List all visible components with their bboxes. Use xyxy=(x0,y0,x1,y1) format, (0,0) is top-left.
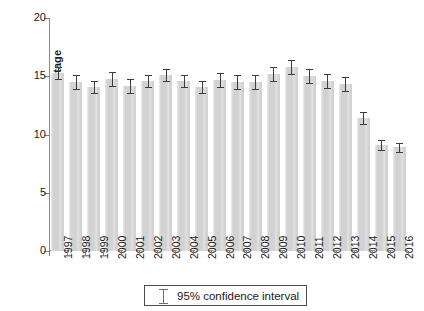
x-tick-label: 2011 xyxy=(314,236,325,259)
error-bar-cap-lower xyxy=(163,81,170,82)
bar-chart-figure: Percentage 05101520 19971998199920002001… xyxy=(0,0,424,311)
x-tick-mark xyxy=(408,251,409,256)
error-bar-stem xyxy=(166,69,167,81)
x-tick-label: 2004 xyxy=(189,236,200,259)
error-bar-glyph-icon xyxy=(159,289,168,304)
x-tick-label: 1997 xyxy=(63,236,74,259)
y-tick-label: 20 xyxy=(24,12,46,23)
x-tick-label: 1998 xyxy=(81,236,92,259)
x-tick-label: 2012 xyxy=(332,236,343,259)
error-bar-stem xyxy=(76,75,77,89)
error-bar-cap-lower xyxy=(234,89,241,90)
legend: 95% confidence interval xyxy=(144,285,307,306)
bar xyxy=(177,81,190,251)
plot-area xyxy=(49,18,408,251)
error-bar-cap-upper xyxy=(324,74,331,75)
bar xyxy=(159,75,172,251)
x-tick-mark xyxy=(246,251,247,256)
x-tick-label: 2009 xyxy=(278,236,289,259)
x-tick-mark xyxy=(139,251,140,256)
bar xyxy=(339,84,352,251)
x-tick-mark xyxy=(85,251,86,256)
error-bar-cap-upper xyxy=(109,72,116,73)
bar xyxy=(303,76,316,251)
y-tick-label: 0 xyxy=(24,245,46,256)
bar xyxy=(51,73,64,251)
x-tick-mark xyxy=(193,251,194,256)
x-tick-mark xyxy=(390,251,391,256)
x-tick-label: 2008 xyxy=(260,236,271,259)
error-bar-cap-upper xyxy=(145,75,152,76)
x-tick-mark xyxy=(67,251,68,256)
error-bar-cap-lower xyxy=(342,91,349,92)
error-bar-cap-lower xyxy=(181,87,188,88)
x-tick-mark xyxy=(336,251,337,256)
x-tick-mark xyxy=(372,251,373,256)
y-tick-label: 5 xyxy=(24,187,46,198)
x-tick-mark xyxy=(354,251,355,256)
x-tick-label: 2010 xyxy=(296,236,307,259)
error-bar-stem xyxy=(237,75,238,89)
y-tick-label: 10 xyxy=(24,129,46,140)
x-tick-mark xyxy=(211,251,212,256)
error-bar-stem xyxy=(327,74,328,88)
x-tick-label: 1999 xyxy=(99,236,110,259)
error-bar-cap-upper xyxy=(306,69,313,70)
x-tick-mark xyxy=(264,251,265,256)
error-bar-stem xyxy=(94,81,95,93)
error-bar-cap-upper xyxy=(217,73,224,74)
error-bar-cap-upper xyxy=(73,75,80,76)
bar xyxy=(105,79,118,251)
error-bar-cap-lower xyxy=(396,152,403,153)
error-bar-cap-upper xyxy=(127,79,134,80)
error-bar-cap-upper xyxy=(91,81,98,82)
y-tick-label: 15 xyxy=(24,70,46,81)
error-bar-stem xyxy=(309,69,310,83)
error-bar-cap-upper xyxy=(163,69,170,70)
x-tick-label: 2014 xyxy=(368,236,379,259)
x-tick-mark xyxy=(157,251,158,256)
x-tick-label: 2013 xyxy=(350,236,361,259)
error-bar-stem xyxy=(399,143,400,152)
x-tick-mark xyxy=(229,251,230,256)
error-bar-stem xyxy=(148,75,149,87)
error-bar-stem xyxy=(202,81,203,93)
bar xyxy=(231,82,244,251)
x-tick-label: 2001 xyxy=(135,236,146,259)
error-bar-cap-upper xyxy=(288,60,295,61)
x-tick-label: 2003 xyxy=(171,236,182,259)
bar xyxy=(87,87,100,251)
x-tick-mark xyxy=(103,251,104,256)
error-bar-stem xyxy=(255,75,256,89)
bar xyxy=(321,81,334,251)
error-bar-stem xyxy=(58,67,59,79)
bar xyxy=(141,81,154,251)
x-tick-mark xyxy=(282,251,283,256)
x-tick-label: 2005 xyxy=(207,236,218,259)
error-bar-stem xyxy=(184,75,185,87)
error-bar-stem xyxy=(381,140,382,149)
error-bar-cap-upper xyxy=(234,75,241,76)
bar xyxy=(285,67,298,251)
error-bar-cap-upper xyxy=(252,75,259,76)
x-tick-label: 2006 xyxy=(225,236,236,259)
error-bar-cap-lower xyxy=(199,93,206,94)
x-tick-mark xyxy=(300,251,301,256)
bar xyxy=(69,82,82,251)
error-bar-cap-lower xyxy=(127,93,134,94)
error-bar-stem xyxy=(363,112,364,124)
error-bar-cap-lower xyxy=(91,93,98,94)
error-bar-stem xyxy=(345,77,346,91)
error-bar-cap-lower xyxy=(109,86,116,87)
error-bar-cap-lower xyxy=(73,89,80,90)
error-bar-stem xyxy=(112,72,113,86)
error-bar-stem xyxy=(273,67,274,81)
error-bar-cap-lower xyxy=(288,74,295,75)
error-bar-cap-lower xyxy=(252,89,259,90)
error-bar-cap-lower xyxy=(270,81,277,82)
y-axis-ticks: 05101520 xyxy=(0,0,46,311)
bar xyxy=(357,118,370,251)
error-bar-cap-upper xyxy=(342,77,349,78)
bar xyxy=(267,74,280,251)
error-bar-cap-upper xyxy=(199,81,206,82)
